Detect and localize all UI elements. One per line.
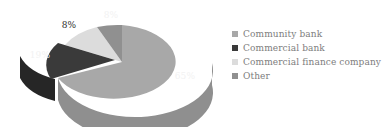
legend-item-community-bank[interactable]: Community bank: [232, 27, 384, 41]
data-label-commercial-bank: 19%: [30, 50, 51, 60]
legend-swatch-icon: [232, 45, 238, 51]
legend-label: Community bank: [243, 27, 322, 41]
legend-label: Other: [243, 69, 270, 83]
pie-top-faces: [46, 25, 175, 99]
pie-chart: 65% 19% 8% 8% Community bank Commercial …: [0, 0, 385, 127]
data-label-community-bank: 65%: [175, 71, 196, 81]
legend-label: Commercial finance company: [243, 55, 381, 69]
legend-swatch-icon: [232, 31, 238, 37]
pie-svg: 65% 19% 8% 8%: [0, 0, 228, 127]
legend-item-commercial-bank[interactable]: Commercial bank: [232, 41, 384, 55]
legend-item-commercial-finance-company[interactable]: Commercial finance company: [232, 55, 384, 69]
data-label-other: 8%: [104, 10, 119, 20]
legend-swatch-icon: [232, 73, 238, 79]
legend-label: Commercial bank: [243, 41, 325, 55]
legend-item-other[interactable]: Other: [232, 69, 384, 83]
legend: Community bank Commercial bank Commercia…: [232, 27, 384, 83]
data-label-commercial-finance-company: 8%: [62, 20, 77, 30]
pie-plot-area: 65% 19% 8% 8%: [0, 0, 228, 127]
legend-swatch-icon: [232, 59, 238, 65]
